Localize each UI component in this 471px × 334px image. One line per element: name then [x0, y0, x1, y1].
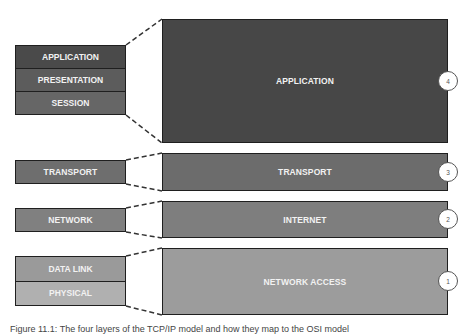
layer-number-badge-1: 1: [438, 271, 458, 291]
layer-number-badge-3: 3: [438, 162, 458, 182]
osi-layer-transport: TRANSPORT: [15, 160, 126, 184]
tcpip-layer-transport: TRANSPORT: [162, 153, 448, 191]
osi-layer-physical: PHYSICAL: [16, 281, 125, 306]
osi-group-lower: DATA LINK PHYSICAL: [15, 256, 126, 306]
osi-group-upper: APPLICATION PRESENTATION SESSION: [15, 45, 126, 115]
tcpip-layer-application: APPLICATION: [162, 19, 448, 143]
layer-number-badge-2: 2: [438, 209, 458, 229]
figure-caption: Figure 11.1: The four layers of the TCP/…: [10, 324, 349, 334]
osi-layer-application: APPLICATION: [16, 46, 125, 68]
osi-layer-data-link: DATA LINK: [16, 257, 125, 281]
osi-layer-network: NETWORK: [15, 208, 126, 232]
layer-number-badge-4: 4: [438, 71, 458, 91]
osi-layer-presentation: PRESENTATION: [16, 68, 125, 91]
osi-layer-session: SESSION: [16, 91, 125, 114]
tcpip-layer-internet: INTERNET: [162, 201, 448, 238]
tcpip-layer-network-access: NETWORK ACCESS: [162, 248, 448, 315]
